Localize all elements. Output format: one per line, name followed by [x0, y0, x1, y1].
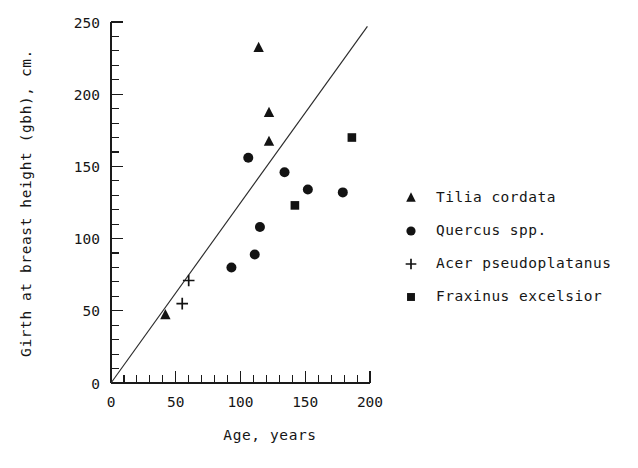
y-axis-major-ticks [111, 22, 123, 383]
y-tick-label: 50 [83, 303, 100, 319]
y-axis-minor-ticks [111, 36, 119, 368]
series-fraxinus-excelsior [291, 133, 357, 209]
data-point-circle [226, 262, 236, 272]
legend-item[interactable]: Tilia cordata [406, 189, 556, 205]
x-axis: 050100150200 Age, years [107, 371, 383, 443]
y-axis: 050100150200250 Girth at breast height (… [18, 15, 123, 392]
data-point-circle [243, 153, 253, 163]
y-tick-label: 150 [74, 159, 100, 175]
data-point-circle [250, 249, 260, 259]
circle-marker [406, 226, 415, 235]
x-tick-label: 100 [227, 394, 253, 410]
x-axis-title: Age, years [223, 427, 316, 443]
legend-label: Tilia cordata [436, 189, 556, 205]
data-point-triangle [253, 42, 263, 52]
y-tick-label: 100 [74, 231, 100, 247]
square-marker [407, 293, 415, 301]
legend-label: Acer pseudoplatanus [436, 255, 611, 271]
y-tick-label: 200 [74, 87, 100, 103]
data-point-plus [176, 298, 188, 310]
legend: Tilia cordataQuercus spp.Acer pseudoplat… [406, 189, 612, 304]
data-point-circle [255, 222, 265, 232]
x-tick-label: 150 [292, 394, 318, 410]
reference-line [111, 26, 367, 383]
y-tick-label: 0 [91, 376, 100, 392]
legend-item[interactable]: Acer pseudoplatanus [406, 255, 612, 271]
reference-line-path [111, 26, 367, 383]
legend-item[interactable]: Fraxinus excelsior [407, 288, 602, 304]
data-point-triangle [160, 309, 170, 319]
triangle-marker [406, 192, 416, 201]
series-quercus-spp [226, 153, 347, 273]
data-point-square [348, 133, 357, 142]
data-point-square [291, 201, 300, 210]
data-point-circle [280, 167, 290, 177]
data-point-circle [303, 185, 313, 195]
x-tick-label: 200 [357, 394, 383, 410]
x-tick-label: 0 [107, 394, 116, 410]
x-tick-label: 50 [167, 394, 184, 410]
data-point-triangle [264, 107, 274, 117]
scatter-chart: 050100150200250 Girth at breast height (… [0, 0, 638, 468]
y-axis-title: Girth at breast height (gbh), cm. [18, 49, 34, 357]
data-point-circle [338, 187, 348, 197]
legend-label: Fraxinus excelsior [436, 288, 602, 304]
series-acer-pseudoplatanus [176, 275, 194, 310]
legend-label: Quercus spp. [436, 222, 547, 238]
plus-marker [406, 259, 417, 270]
x-axis-tick-labels: 050100150200 [107, 394, 383, 410]
data-point-plus [183, 275, 195, 287]
legend-item[interactable]: Quercus spp. [406, 222, 546, 238]
y-tick-label: 250 [74, 15, 100, 31]
y-axis-tick-labels: 050100150200250 [74, 15, 100, 392]
data-point-triangle [264, 136, 274, 146]
